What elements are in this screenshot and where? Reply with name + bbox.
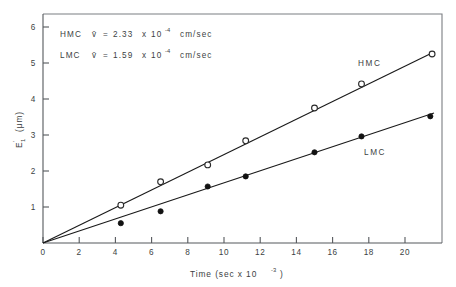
lmc-annotation-units: cm/sec (180, 51, 213, 60)
x-tick-label-4: 4 (113, 248, 118, 257)
y-tick-label-1: 1 (31, 203, 36, 212)
lmc-fit-line (43, 113, 434, 243)
y-axis-ticks (43, 27, 49, 207)
y-axis-title: E 1 ′ (μm) (12, 111, 26, 148)
hmc-annotation-symbol: v̄ (92, 30, 97, 39)
hmc-annotation-value: 2.33 (113, 30, 133, 39)
hmc-point (243, 138, 249, 144)
x-tick-label-6: 6 (149, 248, 154, 257)
x-axis-ticks (43, 237, 405, 243)
x-axis-title-exponent: -3 (271, 267, 276, 273)
x-tick-label-2: 2 (77, 248, 82, 257)
hmc-point (158, 179, 164, 185)
scientific-figure: 1 2 3 4 5 6 0 2 4 6 8 10 (0, 0, 456, 287)
lmc-point (118, 221, 123, 226)
y-tick-label-3: 3 (31, 131, 36, 140)
lmc-annotation-equals: = (103, 51, 109, 60)
x-tick-label-18: 18 (364, 248, 374, 257)
hmc-annotation-equals: = (103, 30, 109, 39)
lmc-point (359, 134, 364, 139)
hmc-annotation-units: cm/sec (180, 30, 213, 39)
x-tick-label-8: 8 (185, 248, 190, 257)
lmc-point (243, 174, 248, 179)
hmc-annotation-exponent: -4 (165, 27, 171, 33)
lmc-series-label: LMC (364, 148, 386, 157)
hmc-point (429, 51, 435, 57)
lmc-annotation-sample: LMC (60, 51, 81, 60)
axes (43, 14, 442, 243)
hmc-point (312, 105, 318, 111)
y-tick-label-6: 6 (31, 23, 36, 32)
lmc-point (428, 114, 433, 119)
chart-canvas: 1 2 3 4 5 6 0 2 4 6 8 10 (0, 0, 456, 287)
lmc-annotation-symbol: v̄ (92, 51, 97, 60)
x-axis-title: Time (sec x 10 -3 ) (190, 267, 284, 279)
x-tick-label-20: 20 (400, 248, 410, 257)
y-axis-title-sub: 1 (20, 139, 26, 142)
y-axis-title-prime: ′ (12, 141, 18, 142)
x-tick-label-14: 14 (291, 248, 301, 257)
hmc-annotation-times: x (142, 30, 147, 39)
x-tick-label-16: 16 (327, 248, 337, 257)
lmc-data-points (118, 114, 433, 226)
x-tick-label-0: 0 (40, 248, 45, 257)
y-tick-label-5: 5 (31, 59, 36, 68)
x-tick-label-12: 12 (255, 248, 265, 257)
y-axis-tick-labels: 1 2 3 4 5 6 (31, 23, 36, 212)
hmc-velocity-annotation: HMC v̄ = 2.33 x 10 -4 cm/sec (60, 27, 213, 39)
hmc-point (205, 162, 211, 168)
hmc-point (118, 202, 124, 208)
x-tick-label-10: 10 (219, 248, 229, 257)
lmc-annotation-value: 1.59 (113, 51, 133, 60)
y-tick-label-2: 2 (31, 167, 36, 176)
lmc-velocity-annotation: LMC v̄ = 1.59 x 10 -4 cm/sec (60, 48, 213, 60)
lmc-point (205, 184, 210, 189)
lmc-point (158, 209, 163, 214)
hmc-annotation-sample: HMC (60, 30, 82, 39)
x-axis-tick-labels: 0 2 4 6 8 10 12 14 16 18 20 (40, 248, 410, 257)
hmc-series-label: HMC (358, 59, 381, 68)
plot-frame (43, 14, 442, 243)
x-axis-title-suffix: ) (280, 269, 284, 279)
lmc-annotation-times: x (142, 51, 147, 60)
x-axis-title-text: Time (sec x 10 (190, 269, 257, 279)
y-axis-title-units: (μm) (14, 111, 24, 132)
lmc-annotation-base: 10 (151, 51, 162, 60)
y-tick-label-4: 4 (31, 95, 36, 104)
hmc-point (359, 81, 365, 87)
lmc-annotation-exponent: -4 (165, 48, 171, 54)
hmc-annotation-base: 10 (151, 30, 162, 39)
lmc-point (312, 150, 317, 155)
frame-top-right (43, 14, 442, 243)
